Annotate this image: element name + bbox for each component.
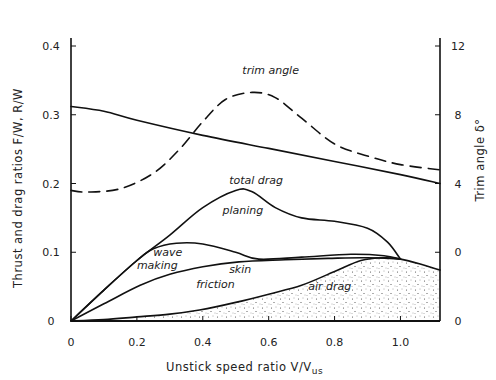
x-tick-label: 0 — [68, 336, 75, 349]
thrust-curve — [71, 107, 440, 184]
y-axis-title: Thrust and drag ratios F/W, R/W — [11, 88, 25, 289]
y-tick-label: 0.2 — [42, 178, 60, 191]
x-tick-label: 0.6 — [260, 336, 278, 349]
y-tick-label: 0.1 — [42, 246, 60, 259]
curve-label-making: making — [137, 259, 178, 272]
x-axis-title-subscript: us — [312, 366, 323, 376]
x-tick-label: 0.2 — [128, 336, 146, 349]
y-tick-label: 0.3 — [42, 109, 60, 122]
curve-label-skin: skin — [229, 263, 251, 276]
y-tick-label: 0.4 — [42, 40, 60, 53]
y2-axis-title: Trim angle δ° — [473, 119, 487, 203]
chart: 00.20.40.60.81.000.10.20.30.4004812 trim… — [0, 0, 496, 380]
y2-tick-label: 0 — [455, 246, 462, 259]
curve-label-total-drag: total drag — [229, 174, 283, 187]
y2-tick-label: 4 — [455, 178, 462, 191]
curve-label-air-drag: air drag — [308, 280, 351, 293]
air-drag-fill — [71, 258, 440, 321]
y-tick-label: 0 — [48, 315, 55, 328]
y2-tick-label: 12 — [451, 40, 465, 53]
y2-tick-label: 0 — [455, 315, 462, 328]
x-tick-label: 0.4 — [194, 336, 212, 349]
curve-label-planing: planing — [222, 204, 264, 217]
air-drag-area — [71, 258, 440, 321]
curve-label-wave: wave — [153, 246, 182, 259]
curve-label-trim-angle: trim angle — [242, 64, 299, 77]
x-tick-label: 1.0 — [392, 336, 410, 349]
y2-tick-label: 8 — [455, 109, 462, 122]
x-axis-title: Unstick speed ratio V/Vus — [166, 360, 323, 376]
curve-label-friction: friction — [196, 278, 235, 291]
x-tick-label: 0.8 — [326, 336, 344, 349]
